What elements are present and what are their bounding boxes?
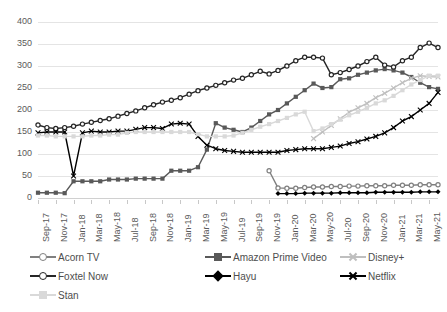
x-axis-tick-mark xyxy=(411,200,412,204)
x-axis-tick-label: Sep-18 xyxy=(149,213,158,242)
x-axis-tick-label: May-20 xyxy=(326,212,335,242)
x-axis-tick-mark xyxy=(198,200,199,204)
x-axis-tick-mark xyxy=(56,200,57,204)
x-axis-tick-mark xyxy=(216,200,217,204)
x-axis-tick-label: Nov-17 xyxy=(60,213,69,242)
x-axis-tick-mark xyxy=(91,200,92,204)
series-foxtel-now xyxy=(36,41,440,131)
x-axis-tick-label: Nov-20 xyxy=(380,213,389,242)
y-axis-tick-label: 350 xyxy=(17,39,32,48)
x-axis-tick-label: Mar-18 xyxy=(95,213,104,242)
x-axis-tick-label: May-18 xyxy=(113,212,122,242)
y-axis-tick-label: 50 xyxy=(22,171,32,180)
plot-area xyxy=(38,22,438,198)
legend-item-acorn-tv[interactable]: Acorn TV xyxy=(30,250,100,264)
legend-marker-foxtel-now-icon xyxy=(30,270,56,282)
legend-item-stan[interactable]: Stan xyxy=(30,288,79,302)
x-axis-tick-label: Mar-21 xyxy=(415,213,424,242)
legend-marker-acorn-tv-icon xyxy=(30,251,56,263)
legend-item-netflix[interactable]: Netflix xyxy=(340,269,396,283)
legend-symbol-square xyxy=(214,253,222,261)
x-axis-tick-mark xyxy=(251,200,252,204)
x-axis-tick-mark xyxy=(145,200,146,204)
x-axis-tick-label: Sep-17 xyxy=(42,213,51,242)
x-axis: Sep-17Nov-17Jan-18Mar-18May-18Jul-18Sep-… xyxy=(38,200,438,246)
y-axis-tick-label: 100 xyxy=(17,149,32,158)
y-axis-tick-label: 200 xyxy=(17,105,32,114)
x-axis-tick-label: Mar-20 xyxy=(309,213,318,242)
chart-container: 050100150200250300350400 Sep-17Nov-17Jan… xyxy=(0,0,447,312)
series-lines xyxy=(38,22,438,198)
legend-label: Hayu xyxy=(231,271,256,282)
legend-item-disney[interactable]: Disney+ xyxy=(340,250,404,264)
x-axis-tick-label: Jul-20 xyxy=(344,217,353,242)
legend-marker-amazon-prime-video-icon xyxy=(205,251,231,263)
y-axis-tick-label: 250 xyxy=(17,83,32,92)
x-axis-tick-label: Jan-21 xyxy=(398,214,407,242)
x-axis-tick-label: Sep-19 xyxy=(255,213,264,242)
y-axis: 050100150200250300350400 xyxy=(0,0,36,198)
legend-symbol-x xyxy=(349,272,357,280)
chart-legend: Acorn TVAmazon Prime VideoDisney+Foxtel … xyxy=(30,250,440,308)
x-axis-tick-mark xyxy=(180,200,181,204)
x-axis-tick-mark xyxy=(162,200,163,204)
legend-symbol-circle xyxy=(39,272,47,280)
series-hayu xyxy=(276,189,441,196)
legend-symbol-square xyxy=(39,291,47,299)
legend-item-foxtel-now[interactable]: Foxtel Now xyxy=(30,269,108,283)
x-axis-tick-label: May-19 xyxy=(220,212,229,242)
legend-symbol-x xyxy=(349,253,357,261)
x-axis-tick-label: Jul-19 xyxy=(238,217,247,242)
legend-item-amazon-prime-video[interactable]: Amazon Prime Video xyxy=(205,250,327,264)
x-axis-tick-label: Jan-18 xyxy=(78,214,87,242)
legend-label: Amazon Prime Video xyxy=(231,252,327,263)
y-axis-tick-label: 400 xyxy=(17,17,32,26)
x-axis-tick-mark xyxy=(38,200,39,204)
x-axis-tick-mark xyxy=(74,200,75,204)
series-stan xyxy=(36,74,440,139)
x-axis-tick-label: Nov-19 xyxy=(273,213,282,242)
legend-label: Disney+ xyxy=(366,252,404,263)
x-axis-tick-mark xyxy=(127,200,128,204)
x-axis-tick-label: Sep-20 xyxy=(362,213,371,242)
legend-label: Netflix xyxy=(366,271,396,282)
gridline-0 xyxy=(38,198,438,199)
x-axis-tick-label: Jan-20 xyxy=(291,214,300,242)
legend-label: Stan xyxy=(56,290,79,301)
legend-symbol-circle xyxy=(39,253,47,261)
x-axis-tick-mark xyxy=(269,200,270,204)
x-axis-tick-mark xyxy=(109,200,110,204)
x-axis-tick-mark xyxy=(429,200,430,204)
x-axis-tick-mark xyxy=(376,200,377,204)
legend-marker-netflix-icon xyxy=(340,270,366,282)
y-axis-tick-label: 300 xyxy=(17,61,32,70)
x-axis-tick-label: Mar-19 xyxy=(202,213,211,242)
series-acorn-tv xyxy=(267,169,440,191)
legend-marker-disney-icon xyxy=(340,251,366,263)
x-axis-tick-mark xyxy=(322,200,323,204)
x-axis-tick-mark xyxy=(358,200,359,204)
x-axis-tick-label: May-21 xyxy=(433,212,442,242)
legend-marker-stan-icon xyxy=(30,289,56,301)
legend-label: Acorn TV xyxy=(56,252,100,263)
x-axis-tick-label: Jan-19 xyxy=(184,214,193,242)
x-axis-tick-mark xyxy=(234,200,235,204)
y-axis-tick-label: 150 xyxy=(17,127,32,136)
legend-item-hayu[interactable]: Hayu xyxy=(205,269,256,283)
x-axis-tick-label: Jul-18 xyxy=(131,217,140,242)
x-axis-tick-mark xyxy=(340,200,341,204)
x-axis-tick-mark xyxy=(305,200,306,204)
legend-label: Foxtel Now xyxy=(56,271,108,282)
y-axis-tick-label: 0 xyxy=(27,193,32,202)
legend-marker-hayu-icon xyxy=(205,270,231,282)
x-axis-tick-mark xyxy=(394,200,395,204)
x-axis-tick-mark xyxy=(287,200,288,204)
legend-symbol-diamond xyxy=(212,270,223,281)
x-axis-tick-label: Nov-18 xyxy=(166,213,175,242)
